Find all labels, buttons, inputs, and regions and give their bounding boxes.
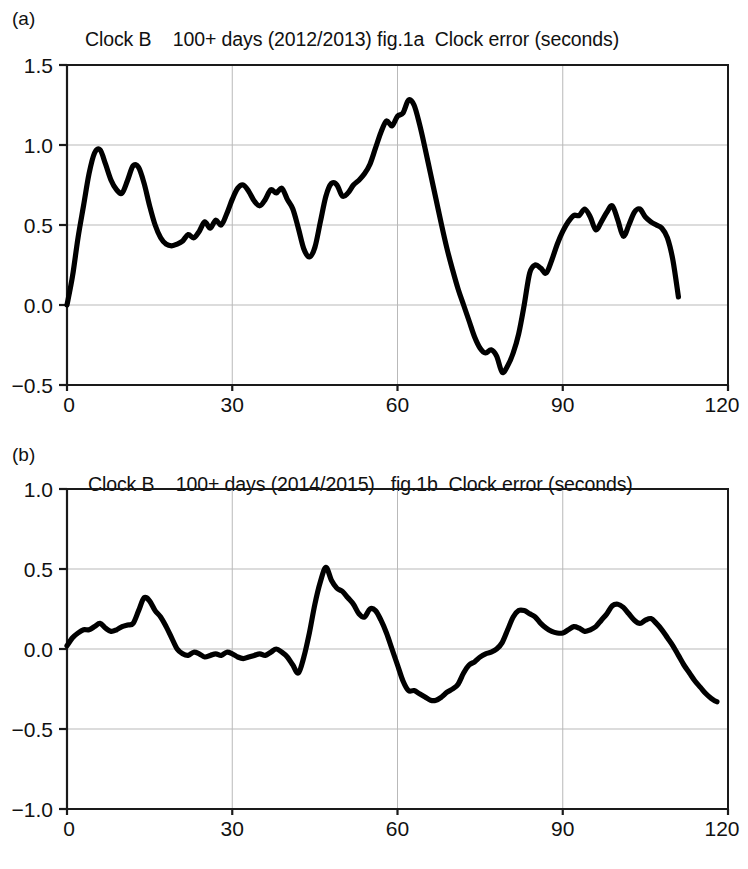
chart-plot-b: −1.0−0.50.00.51.00306090120 bbox=[0, 430, 748, 869]
x-axis-tick-label: 0 bbox=[63, 817, 75, 840]
y-axis-tick-label: −0.5 bbox=[12, 718, 53, 741]
x-axis-tick-label: 30 bbox=[221, 393, 244, 416]
x-axis-tick-label: 30 bbox=[221, 817, 244, 840]
chart-plot-a: −0.50.00.51.01.50306090120 bbox=[0, 0, 748, 430]
x-axis-tick-label: 90 bbox=[551, 393, 574, 416]
data-series-line bbox=[67, 100, 678, 373]
data-series-line bbox=[67, 567, 717, 701]
y-axis-tick-label: 0.5 bbox=[24, 214, 53, 237]
figure-container: (a) Clock B 100+ days (2012/2013) fig.1a… bbox=[0, 0, 748, 869]
x-axis-tick-label: 60 bbox=[386, 393, 409, 416]
x-axis-tick-label: 90 bbox=[551, 817, 574, 840]
y-axis-tick-label: 0.5 bbox=[24, 558, 53, 581]
y-axis-tick-label: 0.0 bbox=[24, 638, 53, 661]
y-axis-tick-label: −1.0 bbox=[12, 798, 53, 821]
chart-panel-b: (b) Clock B 100+ days (2014/2015) fig.1b… bbox=[0, 430, 748, 869]
y-axis-tick-label: 1.0 bbox=[24, 134, 53, 157]
x-axis-tick-label: 120 bbox=[704, 393, 739, 416]
y-axis-tick-label: 1.0 bbox=[24, 478, 53, 501]
x-axis-tick-label: 120 bbox=[704, 817, 739, 840]
x-axis-tick-label: 60 bbox=[386, 817, 409, 840]
y-axis-tick-label: 0.0 bbox=[24, 294, 53, 317]
y-axis-tick-label: 1.5 bbox=[24, 54, 53, 77]
x-axis-tick-label: 0 bbox=[63, 393, 75, 416]
chart-panel-a: (a) Clock B 100+ days (2012/2013) fig.1a… bbox=[0, 0, 748, 430]
y-axis-tick-label: −0.5 bbox=[12, 374, 53, 397]
